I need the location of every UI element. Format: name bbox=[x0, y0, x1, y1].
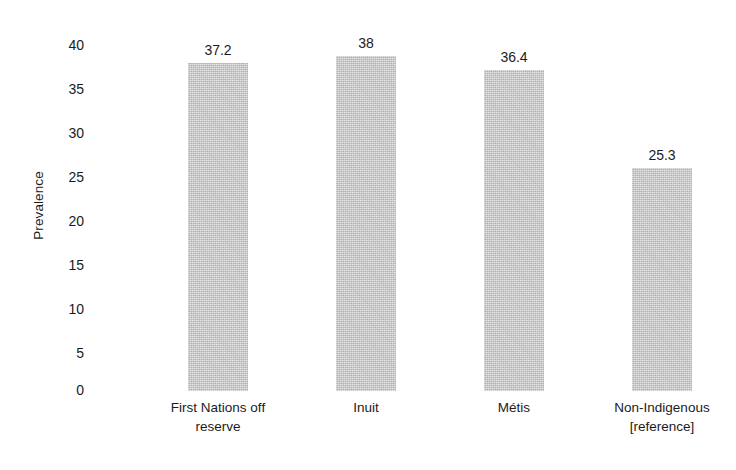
bar[interactable] bbox=[336, 56, 396, 391]
bar-group: 36.4 bbox=[484, 38, 544, 391]
x-axis-category-labels: First Nations off reserve Inuit Métis No… bbox=[100, 398, 712, 460]
y-tick-label: 20 bbox=[38, 214, 84, 228]
x-axis-label-non-indigenous-reference: Non-Indigenous [reference] bbox=[574, 398, 736, 436]
bar-value-label: 37.2 bbox=[204, 43, 231, 57]
bar-group: 37.2 bbox=[188, 38, 248, 391]
y-tick-label: 0 bbox=[38, 383, 84, 397]
bar-chart: Prevalence 40 35 30 25 20 15 10 5 0 37.2… bbox=[0, 0, 736, 470]
bar-value-label: 36.4 bbox=[500, 50, 527, 64]
bar-group: 25.3 bbox=[632, 38, 692, 391]
y-tick-label: 40 bbox=[38, 38, 84, 52]
bar[interactable] bbox=[484, 70, 544, 391]
y-tick-label: 25 bbox=[38, 170, 84, 184]
bar-value-label: 25.3 bbox=[648, 148, 675, 162]
x-axis-label-line: [reference] bbox=[574, 417, 736, 436]
y-tick-label: 35 bbox=[38, 82, 84, 96]
y-tick-label: 10 bbox=[38, 302, 84, 316]
plot-area: 37.2 38 36.4 25.3 bbox=[100, 38, 712, 391]
x-axis-label-line: Non-Indigenous bbox=[574, 398, 736, 417]
bar-value-label: 38 bbox=[358, 36, 374, 50]
y-tick-label: 30 bbox=[38, 126, 84, 140]
y-axis-tick-labels: 40 35 30 25 20 15 10 5 0 bbox=[38, 0, 84, 470]
bar[interactable] bbox=[632, 168, 692, 391]
x-axis-label-line: reserve bbox=[130, 417, 306, 436]
y-tick-label: 15 bbox=[38, 258, 84, 272]
y-tick-label: 5 bbox=[38, 346, 84, 360]
bar[interactable] bbox=[188, 63, 248, 391]
bar-group: 38 bbox=[336, 38, 396, 391]
